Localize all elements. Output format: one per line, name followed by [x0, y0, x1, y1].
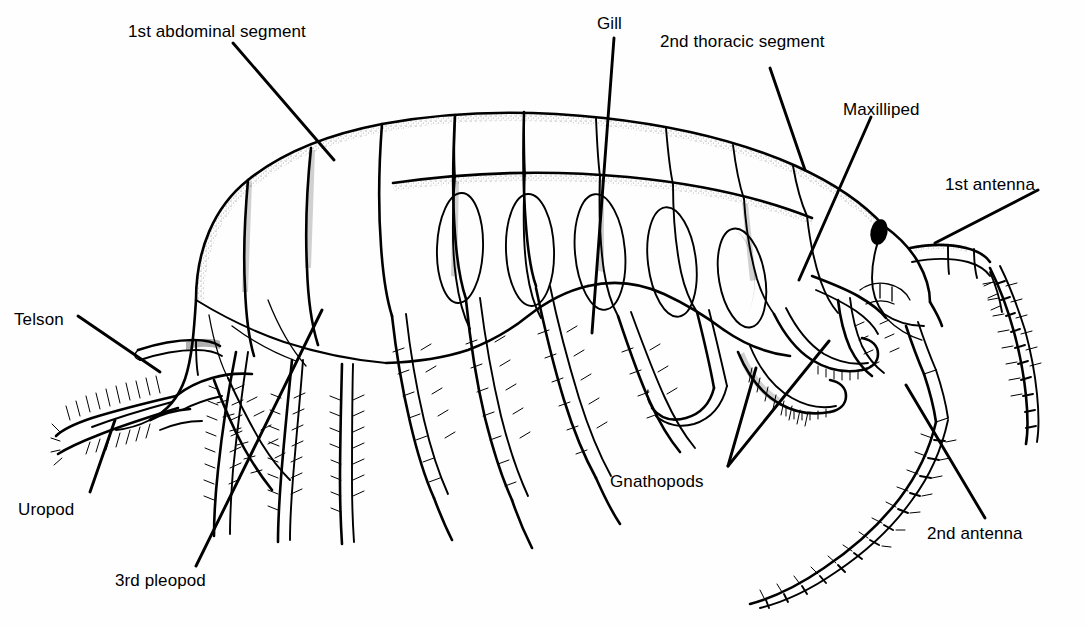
label-first-abdominal-segment: 1st abdominal segment	[128, 22, 306, 42]
label-telson: Telson	[14, 310, 64, 330]
label-maxilliped: Maxilliped	[843, 100, 920, 120]
label-uropod: Uropod	[18, 500, 74, 520]
label-gnathopods: Gnathopods	[610, 472, 704, 492]
label-second-antenna: 2nd antenna	[927, 524, 1023, 544]
label-gill: Gill	[597, 14, 622, 34]
label-second-thoracic-segment: 2nd thoracic segment	[660, 32, 825, 52]
amphipod-diagram: .o{fill:none;stroke:#000;stroke-width:2.…	[0, 0, 1087, 627]
label-first-antenna: 1st antenna	[945, 175, 1035, 195]
label-third-pleopod: 3rd pleopod	[115, 571, 206, 591]
